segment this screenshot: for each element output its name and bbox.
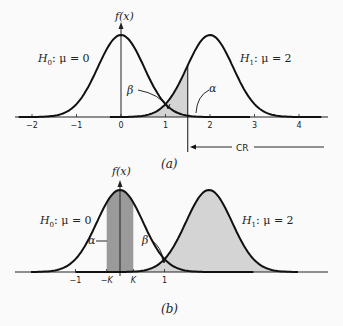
alpha-label-a: α bbox=[209, 82, 217, 95]
h1-curve-a bbox=[110, 35, 321, 117]
x-tick-label: −1 bbox=[71, 121, 83, 130]
y-axis-label-b: f(x) bbox=[111, 165, 131, 178]
figure-svg: −2−101234 f(x) H0: μ = 0 H1: μ = 2 β α C… bbox=[0, 0, 343, 326]
x-tick-label: −1 bbox=[70, 276, 82, 285]
cr-arrowhead bbox=[190, 145, 196, 150]
h1-label-b: H1: μ = 2 bbox=[241, 214, 294, 229]
y-axis-arrow-a bbox=[119, 22, 124, 29]
cr-label: CR bbox=[236, 143, 249, 153]
x-tick-label: 1 bbox=[162, 276, 167, 285]
panel-a: −2−101234 f(x) H0: μ = 0 H1: μ = 2 β α C… bbox=[15, 10, 328, 171]
h0-label-a: H0: μ = 0 bbox=[37, 52, 90, 67]
beta-label-a: β bbox=[126, 84, 133, 97]
x-tick-label: 0 bbox=[118, 121, 123, 130]
beta-label-b: β bbox=[141, 234, 148, 247]
x-tick-label: 2 bbox=[207, 121, 212, 130]
hypothesis-test-figure: −2−101234 f(x) H0: μ = 0 H1: μ = 2 β α C… bbox=[0, 0, 343, 326]
x-tick-label: 3 bbox=[252, 121, 257, 130]
alpha-label-b: α bbox=[88, 234, 96, 247]
x-tick-label: K bbox=[131, 276, 137, 285]
h1-label-a: H1: μ = 2 bbox=[239, 52, 292, 67]
y-axis-arrow-b bbox=[118, 180, 123, 187]
h0-curve-a bbox=[19, 35, 250, 117]
y-axis-label-a: f(x) bbox=[114, 10, 134, 23]
beta-region-a bbox=[110, 65, 188, 117]
caption-a: (a) bbox=[161, 157, 178, 171]
x-tick-label: 4 bbox=[296, 121, 301, 130]
alpha-pointer-a bbox=[196, 90, 209, 113]
caption-b: (b) bbox=[161, 302, 178, 316]
x-tick-label: 1 bbox=[163, 121, 168, 130]
x-tick-label: −2 bbox=[26, 121, 38, 130]
panel-b: −1−KK1 f(x) H0: μ = 0 H1: μ = 2 α β (b) bbox=[15, 165, 328, 316]
x-tick-label: −K bbox=[101, 276, 114, 285]
h0-label-b: H0: μ = 0 bbox=[39, 214, 92, 229]
